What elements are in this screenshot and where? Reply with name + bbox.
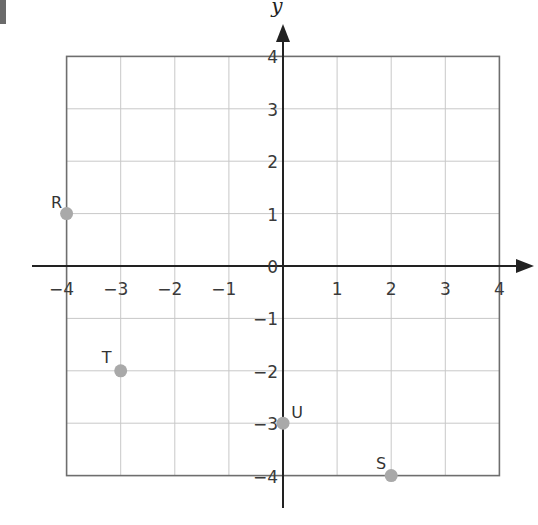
x-tick-label: 4 bbox=[494, 279, 505, 299]
x-tick-label: −2 bbox=[157, 279, 182, 299]
point-t-marker bbox=[114, 364, 127, 377]
y-tick-label: −3 bbox=[253, 414, 278, 434]
y-tick-label: 0 bbox=[267, 257, 278, 277]
point-r-label: R bbox=[51, 193, 62, 212]
y-tick-label: 2 bbox=[267, 152, 278, 172]
x-tick-label: 1 bbox=[332, 279, 343, 299]
x-tick-label: 2 bbox=[386, 279, 397, 299]
x-axis-arrow-icon bbox=[516, 259, 534, 273]
y-tick-label: −1 bbox=[253, 309, 278, 329]
point-s-label: S bbox=[376, 454, 386, 473]
point-u-label: U bbox=[291, 403, 303, 422]
point-t-label: T bbox=[101, 348, 112, 367]
point-u-marker bbox=[277, 417, 290, 430]
x-tick-label: −3 bbox=[103, 279, 128, 299]
y-tick-label: −2 bbox=[253, 362, 278, 382]
y-tick-label: 4 bbox=[267, 47, 278, 67]
y-tick-label: 3 bbox=[267, 100, 278, 120]
point-s-marker bbox=[385, 469, 398, 482]
x-tick-label: −1 bbox=[211, 279, 236, 299]
y-tick-label: 1 bbox=[267, 205, 278, 225]
coordinate-plane: y−4−3−2−1123443210−1−2−3−4RTUS bbox=[0, 0, 538, 525]
y-axis-arrow-icon bbox=[276, 24, 290, 42]
y-axis-label: y bbox=[270, 0, 283, 18]
x-tick-label: 3 bbox=[440, 279, 451, 299]
y-tick-label: −4 bbox=[253, 467, 278, 487]
x-tick-label: −4 bbox=[49, 279, 74, 299]
